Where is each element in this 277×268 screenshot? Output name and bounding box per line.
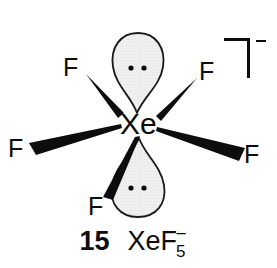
fluorine-top-left-label: F (63, 55, 78, 80)
charge-bracket (224, 38, 272, 82)
central-atom-label: Xe (120, 109, 157, 139)
caption-formula-element: XeF (127, 226, 177, 256)
charge-minus-sign (256, 40, 266, 42)
caption-formula-charge: − (175, 223, 186, 244)
caption-number: 15 (79, 228, 109, 255)
bond-xe-fluorine-top-right (156, 78, 197, 121)
bond-xe-fluorine-left (29, 124, 122, 155)
fluorine-right-label: F (244, 142, 259, 167)
lone-pair-top-lobe (112, 33, 163, 113)
chemical-structure-figure: Xe F F F F F 15 XeF5− (0, 0, 277, 268)
charge-bracket-side-bar (247, 38, 250, 78)
caption-formula-subscript: 5 (176, 242, 185, 261)
fluorine-top-right-label: F (199, 59, 214, 84)
fluorine-left-label: F (8, 136, 23, 161)
bond-xe-fluorine-right (156, 127, 245, 161)
caption-formula: XeF5− (127, 228, 197, 255)
figure-caption: 15 XeF5− (0, 228, 277, 268)
fluorine-bottom-left-label: F (88, 194, 103, 219)
